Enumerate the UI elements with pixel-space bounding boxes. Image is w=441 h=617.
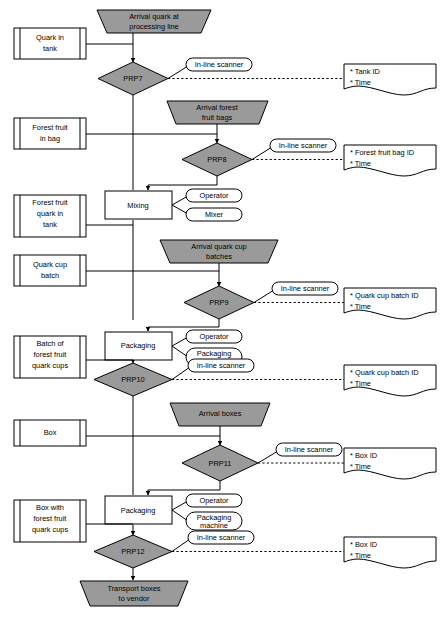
scanner-prp10: In-line scanner (172, 359, 254, 380)
storage-fruit-quark-line-1: Forest fruit (32, 198, 67, 207)
scanner-prp7-label: In-line scanner (195, 60, 244, 69)
arrival-boxes: Arrival boxes (170, 403, 270, 445)
prp-point-prp8: PRP8 (182, 143, 252, 176)
storage-fruit-quark-line-2: quark in (37, 209, 63, 218)
scanner-prp9-label: In-line scanner (281, 284, 330, 293)
storage-batch-cups-line-3: quark cups (32, 361, 68, 370)
terminal-start-label-1: Arrival quark at (129, 12, 179, 21)
storage-quark-tank-line-2: tank (43, 44, 57, 53)
scanner-prp9: In-line scanner (254, 282, 338, 303)
scanner-prp10-label: In-line scanner (197, 361, 246, 370)
resource-packaging-boxes-operator-label: Operator (199, 496, 229, 505)
record-prp8-item-2: * Time (350, 159, 371, 168)
record-prp10-item-1: * Quark cup batch ID (350, 368, 419, 377)
record-prp7-item-2: * Time (350, 78, 371, 87)
prp-point-prp12: PRP12 (94, 535, 172, 568)
process-flowchart: Arrival quark at processing line Quark i… (0, 0, 441, 617)
operation-mixing: Mixing Operator Mixer (105, 189, 242, 221)
operation-packaging-boxes: Packaging Operator Packaging machine (105, 494, 242, 530)
storage-batch-cups-line-2: forest fruit (34, 350, 67, 359)
arrival-forest-fruit-bags: Arrival forest fruit bags (167, 101, 268, 143)
resource-mixing-mixer-label: Mixer (205, 210, 224, 219)
terminal-end: Transport boxes to vendor (80, 581, 188, 606)
scanner-prp8-label: In-line scanner (279, 141, 328, 150)
record-prp7-item-1: * Tank ID (350, 67, 380, 76)
storage-box-with-cups-line-2: forest fruit (34, 514, 67, 523)
storage-batch-cups-line-1: Batch of (36, 339, 64, 348)
storage-box-with-cups-line-1: Box with (36, 503, 64, 512)
scanner-prp11-label: In-line scanner (285, 445, 334, 454)
prp-point-prp9: PRP9 (184, 286, 254, 319)
prp-point-prp12-label: PRP12 (121, 547, 144, 556)
prp-point-prp7-label: PRP7 (123, 74, 142, 83)
arrival-bags-label-1: Arrival forest (196, 103, 237, 112)
arrival-cups-label-1: Arrival quark cup (191, 242, 246, 251)
scanner-prp12-label: In-line scanner (197, 533, 246, 542)
record-prp11-item-1: * Box ID (350, 451, 377, 460)
terminal-start: Arrival quark at processing line (97, 10, 211, 33)
operation-packaging-cups-label: Packaging (121, 341, 156, 350)
record-prp8-item-1: * Forest fruit bag ID (350, 148, 414, 157)
resource-packaging-boxes-machine-label-2: machine (200, 521, 228, 530)
arrival-boxes-label-1: Arrival boxes (199, 409, 242, 418)
terminal-start-label-2: processing line (129, 22, 178, 31)
storage-quark-cup-line-1: Quark cup (33, 260, 67, 269)
record-prp12-item-2: * Time (350, 551, 371, 560)
record-prp9-item-1: * Quark cup batch ID (350, 291, 419, 300)
prp-point-prp11: PRP11 (182, 445, 258, 481)
record-prp12-item-1: * Box ID (350, 540, 377, 549)
arrival-bags-label-2: fruit bags (202, 113, 233, 122)
prp-point-prp11-label: PRP11 (209, 459, 232, 468)
arrival-cups-label-2: batches (206, 252, 232, 261)
storage-fruit-bag-line-2: in bag (40, 134, 60, 143)
storage-fruit-quark-line-3: tank (43, 220, 57, 229)
prp-point-prp7: PRP7 (98, 62, 168, 95)
prp-point-prp10: PRP10 (94, 363, 172, 396)
scanner-prp11: In-line scanner (258, 443, 342, 463)
record-prp11-item-2: * Time (350, 462, 371, 471)
storage-box-with-cups-line-3: quark cups (32, 525, 68, 534)
terminal-end-label-1: Transport boxes (107, 584, 160, 593)
prp-point-prp10-label: PRP10 (121, 375, 144, 384)
storage-fruit-bag-line-1: Forest fruit (32, 123, 67, 132)
resource-mixing-operator-label: Operator (199, 191, 229, 200)
arrival-quark-cup-batches: Arrival quark cup batches (160, 240, 278, 286)
operation-mixing-label: Mixing (127, 201, 148, 210)
scanner-prp8: In-line scanner (252, 139, 336, 160)
resource-packaging-cups-operator-label: Operator (199, 332, 229, 341)
storage-quark-tank-line-1: Quark in (36, 33, 64, 42)
terminal-end-label-2: to vendor (119, 594, 150, 603)
prp-point-prp8-label: PRP8 (207, 155, 226, 164)
storage-box-line-1: Box (44, 428, 57, 437)
record-prp9-item-2: * Time (350, 302, 371, 311)
scanner-prp7: In-line scanner (168, 58, 252, 79)
storage-quark-cup-line-2: batch (41, 271, 59, 280)
scanner-prp12: In-line scanner (172, 531, 254, 552)
operation-packaging-boxes-label: Packaging (121, 506, 156, 515)
record-prp10-item-2: * Time (350, 379, 371, 388)
prp-point-prp9-label: PRP9 (209, 298, 228, 307)
